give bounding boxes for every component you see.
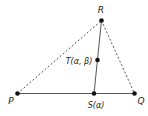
label-P: P bbox=[8, 96, 14, 106]
label-R: R bbox=[98, 5, 104, 15]
triangle-diagram: R P S(α) Q T(α, β) bbox=[0, 0, 148, 116]
point-S bbox=[92, 91, 97, 96]
point-R bbox=[99, 18, 104, 23]
label-T: T(α, β) bbox=[66, 57, 93, 66]
point-P bbox=[15, 91, 20, 96]
segment-RQ-dashed bbox=[102, 21, 135, 94]
label-Q: Q bbox=[137, 96, 144, 106]
point-Q bbox=[132, 91, 137, 96]
segment-RS bbox=[94, 21, 102, 94]
point-T bbox=[95, 58, 100, 63]
label-S: S(α) bbox=[88, 101, 105, 110]
